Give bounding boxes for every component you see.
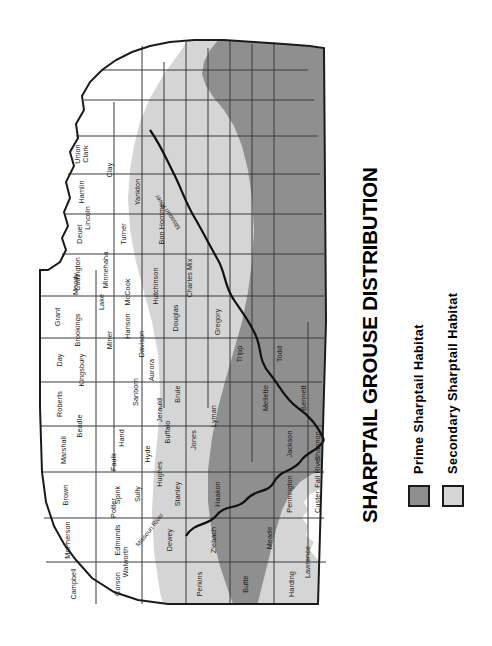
title-legend-stage: SHARPTAIL GROUSE DISTRIBUTION Prime Shar…	[356, 123, 488, 523]
county-label-clay: Clay	[105, 162, 114, 177]
county-label-brown: Brown	[61, 485, 70, 506]
county-label-union: Union	[73, 144, 82, 163]
county-label-brule: Brule	[173, 385, 182, 402]
county-label-mcpherson: McPherson	[63, 521, 72, 558]
county-label-roberts: Roberts	[55, 391, 64, 417]
county-label-mellette: Mellette	[261, 385, 270, 411]
county-label-lyman: Lyman	[209, 405, 218, 427]
legend: Prime Sharptail Habitat Secondary Sharpt…	[408, 293, 476, 507]
county-label-aurora: Aurora	[147, 359, 156, 381]
county-label-potter: Potter	[109, 498, 118, 518]
legend-item-secondary: Secondary Sharptail Habitat	[442, 293, 464, 507]
county-label-hughes: Hughes	[155, 461, 164, 487]
legend-swatch-secondary	[442, 485, 464, 507]
county-label-haakon: Haakon	[213, 481, 222, 506]
county-label-grant: Grant	[53, 308, 62, 326]
county-label-butte: Butte	[241, 575, 250, 592]
county-label-hand: Hand	[117, 429, 126, 447]
county-label-charles-mix: Charles Mix	[185, 258, 194, 297]
county-label-tripp: Tripp	[235, 346, 244, 363]
map-stage: Harding Butte Perkins Corson Campbell Mc…	[18, 22, 348, 622]
county-label-lake: Lake	[97, 294, 106, 310]
county-label-dewey: Dewey	[165, 528, 174, 551]
county-label-meade: Meade	[265, 527, 274, 549]
county-label-hutchinson: Hutchinson	[151, 268, 160, 305]
title-legend-panel: SHARPTAIL GROUSE DISTRIBUTION Prime Shar…	[352, 0, 492, 646]
legend-label-secondary: Secondary Sharptail Habitat	[446, 293, 460, 474]
county-label-faulk: Faulk	[109, 453, 118, 471]
county-label-jerauld: Jerauld	[155, 398, 164, 422]
county-label-miner: Miner	[105, 330, 114, 349]
county-label-harding: Harding	[287, 571, 296, 597]
county-label-moody: Moody	[71, 273, 80, 295]
county-label-stanley: Stanley	[173, 481, 182, 506]
county-label-minnehaha: Minnehaha	[101, 252, 110, 288]
county-label-beadle: Beadle	[75, 415, 84, 438]
county-label-perkins: Perkins	[195, 571, 204, 596]
county-label-ziebach: Ziebach	[209, 527, 218, 553]
map-panel: Harding Butte Perkins Corson Campbell Mc…	[18, 22, 348, 622]
map-page: Harding Butte Perkins Corson Campbell Mc…	[0, 0, 492, 646]
county-label-jones: Jones	[189, 430, 198, 450]
county-label-douglas: Douglas	[171, 304, 180, 331]
county-label-buffalo: Buffalo	[163, 421, 172, 444]
page-title: SHARPTAIL GROUSE DISTRIBUTION	[358, 123, 382, 523]
county-label-campbell: Campbell	[69, 568, 78, 599]
county-label-turner: Turner	[119, 223, 128, 245]
county-label-day: Day	[55, 353, 64, 366]
south-dakota-map: Harding Butte Perkins Corson Campbell Mc…	[18, 22, 348, 622]
county-label-sanborn: Sanborn	[131, 378, 140, 406]
county-label-hyde: Hyde	[143, 445, 152, 462]
county-label-brookings: Brookings	[73, 313, 82, 346]
legend-swatch-prime	[408, 485, 430, 507]
county-label-custer: Custer	[313, 491, 322, 513]
county-label-lincoln: Lincoln	[83, 206, 92, 229]
county-label-lawrence: Lawrence	[303, 546, 312, 578]
county-label-davison: Davison	[137, 331, 146, 358]
county-label-marshall: Marshall	[59, 436, 68, 464]
county-label-hamlin: Hamlin	[77, 181, 86, 204]
county-label-hanson: Hanson	[123, 313, 132, 338]
legend-item-prime: Prime Sharptail Habitat	[408, 293, 430, 507]
county-label-kingsbury: Kingsbury	[77, 353, 86, 386]
county-label-jackson: Jackson	[285, 430, 294, 457]
county-label-yankton: Yankton	[133, 179, 142, 206]
county-label-pennington: Pennington	[285, 475, 294, 512]
county-label-gregory: Gregory	[213, 308, 222, 335]
county-label-mccook: McCook	[123, 278, 132, 305]
county-label-fall-river: Fall River	[313, 456, 322, 488]
county-label-sully: Sully	[133, 486, 142, 502]
county-label-todd: Todd	[275, 346, 284, 362]
county-label-bennett: Bennett	[299, 385, 308, 410]
county-label-walworth: Walworth	[121, 547, 130, 578]
legend-label-prime: Prime Sharptail Habitat	[412, 324, 426, 474]
county-label-clark: Clark	[81, 145, 90, 163]
